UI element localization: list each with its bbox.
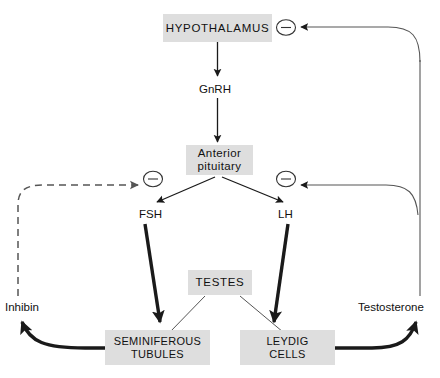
- label-testosterone: Testosterone: [358, 301, 424, 313]
- edge-testosterone-minus-hypothalamus: [301, 27, 420, 62]
- label-fsh: FSH: [139, 208, 162, 220]
- minus-sign-hypothalamus: [277, 20, 296, 36]
- node-anterior-pituitary-line2: pituitary: [198, 160, 242, 172]
- node-leydig-cells: LEYDIG CELLS: [240, 330, 335, 365]
- edge-inhibin-minus: [18, 185, 138, 296]
- node-hypothalamus: HYPOTHALAMUS: [163, 14, 272, 42]
- label-gnrh: GnRH: [199, 83, 231, 95]
- node-hypothalamus-label: HYPOTHALAMUS: [166, 22, 270, 35]
- edge-pituitary-fsh: [157, 177, 215, 202]
- label-lh: LH: [278, 208, 293, 220]
- minus-sign-pituitary-left: [144, 171, 163, 187]
- edge-lh-leydig: [274, 224, 288, 322]
- node-seminiferous-tubules-label: SEMINIFEROUS TUBULES: [114, 335, 201, 360]
- edge-testosterone-minus-pituitary: [301, 185, 418, 215]
- diagram-connectors: [0, 0, 440, 378]
- node-leydig-cells-label: LEYDIG CELLS: [266, 335, 308, 360]
- node-seminiferous-tubules: SEMINIFEROUS TUBULES: [105, 330, 210, 365]
- minus-sign-pituitary-right: [277, 171, 296, 187]
- edge-pituitary-lh: [222, 177, 283, 202]
- edge-leydig-testosterone: [335, 322, 416, 348]
- leader-testes-seminiferous: [170, 296, 205, 332]
- edge-fsh-seminiferous: [145, 224, 160, 322]
- diagram-canvas: HYPOTHALAMUS Anterior pituitary TESTES S…: [0, 0, 440, 378]
- node-seminiferous-line1: SEMINIFEROUS: [114, 335, 201, 347]
- node-leydig-line1: LEYDIG: [266, 335, 308, 347]
- node-testes: TESTES: [188, 270, 252, 295]
- label-inhibin: Inhibin: [5, 301, 39, 313]
- node-anterior-pituitary-label: Anterior pituitary: [198, 147, 242, 173]
- node-anterior-pituitary: Anterior pituitary: [186, 145, 253, 175]
- node-seminiferous-line2: TUBULES: [131, 348, 184, 360]
- node-leydig-line2: CELLS: [269, 348, 305, 360]
- node-testes-label: TESTES: [196, 276, 245, 289]
- node-anterior-pituitary-line1: Anterior: [198, 147, 241, 159]
